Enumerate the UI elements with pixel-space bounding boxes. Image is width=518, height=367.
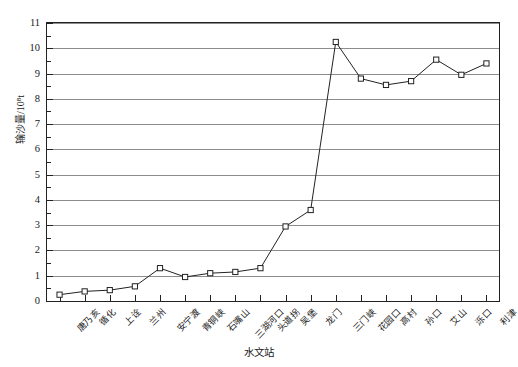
x-axis-tick-label: 吴堡 [297,306,319,328]
data-point-marker [208,271,213,276]
data-point-marker [434,57,439,62]
x-axis-tick-label: 安宁渡 [174,306,202,334]
data-point-marker [233,269,238,274]
data-point-marker [484,61,489,66]
x-axis-tick-label: 艾山 [447,306,469,328]
y-axis-tick-label: 10 [20,42,40,53]
plot-area [46,22,500,302]
y-axis-tick-label: 8 [20,92,40,103]
data-point-marker [308,207,313,212]
data-point-marker [333,39,338,44]
data-point-marker [409,79,414,84]
data-point-marker [157,266,162,271]
x-axis-tick-label: 龙门 [322,306,344,328]
y-axis-tick [47,301,53,302]
y-axis-tick-label: 5 [20,168,40,179]
data-point-marker [283,224,288,229]
y-axis-tick-label: 1 [20,269,40,280]
series-polyline [60,42,487,295]
y-axis-tick-label: 2 [20,244,40,255]
x-axis-tick-label: 上诠 [121,306,143,328]
data-point-marker [358,76,363,81]
x-axis-tick-label: 石嘴山 [224,306,252,334]
y-axis-tick-label: 11 [20,17,40,28]
x-axis-tick-label: 泺口 [473,306,495,328]
x-axis-title: 水文站 [0,344,518,359]
data-point-marker [383,82,388,87]
y-axis-tick-label: 9 [20,67,40,78]
chart-figure: 输沙量/10⁸t 01234567891011 唐乃亥循化上诠兰州安宁渡青铜峡石… [0,0,518,367]
x-axis-tick-label: 孙口 [422,306,444,328]
y-axis-tick-label: 6 [20,143,40,154]
data-point-marker [183,274,188,279]
x-axis-tick-label: 高村 [397,306,419,328]
x-axis-tick-label: 青铜峡 [199,306,227,334]
data-point-marker [107,288,112,293]
y-axis-tick-label: 0 [20,295,40,306]
data-point-marker [459,72,464,77]
x-axis-tick-label: 循化 [96,306,118,328]
data-point-marker [82,289,87,294]
x-axis-tick-label: 利津 [498,306,518,328]
x-axis-tick-label: 兰州 [146,306,168,328]
data-point-marker [57,292,62,297]
data-point-marker [132,284,137,289]
x-axis-tick-label: 三门峡 [350,306,378,334]
y-axis-tick-label: 3 [20,219,40,230]
y-axis-tick-label: 7 [20,118,40,129]
y-axis-tick-label: 4 [20,193,40,204]
data-point-marker [258,266,263,271]
data-series-line [47,23,499,301]
